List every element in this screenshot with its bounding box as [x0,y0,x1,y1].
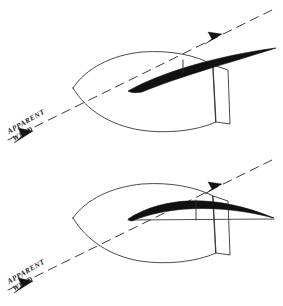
lower-panel: APPARENT WIND [5,160,274,294]
wind-arrowhead-lower-forward [205,182,222,194]
boat-transom-upper [213,65,230,124]
sail-boom-lower [128,219,274,220]
apparent-wind-line-upper [8,10,272,140]
upper-panel: APPARENT WIND [5,10,276,144]
sail-lower [128,201,274,221]
wind-arrowhead-upper-forward [205,32,222,44]
boat-hull-upper [73,52,216,132]
sail-trim-diagram: APPARENT WIND APPARENT WIND [0,0,283,306]
apparent-wind-line-lower [8,160,272,290]
diagram-canvas: APPARENT WIND APPARENT WIND [0,0,283,306]
